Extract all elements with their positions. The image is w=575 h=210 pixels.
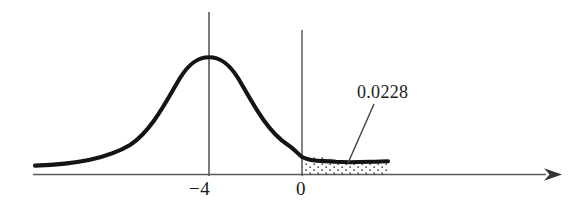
annotation-leader-line xyxy=(348,104,374,163)
axis-tick-label-zero: 0 xyxy=(296,179,306,198)
tail-area-annotation-label: 0.0228 xyxy=(357,83,408,101)
distribution-figure: −4 0 0.0228 xyxy=(0,0,575,210)
axis-tick-label-neg-four: −4 xyxy=(189,179,210,198)
density-curve xyxy=(35,57,388,165)
plot-canvas xyxy=(0,0,575,210)
x-axis-arrow-icon xyxy=(544,168,562,181)
